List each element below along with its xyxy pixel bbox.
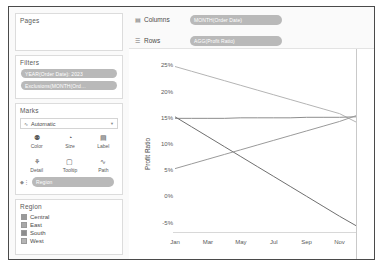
columns-icon: ▤ bbox=[135, 16, 144, 23]
legend-swatch-central bbox=[21, 214, 27, 220]
marks-button-label[interactable]: ▤ Label bbox=[87, 132, 120, 155]
y-axis-tick: -5% bbox=[139, 220, 173, 226]
legend-label-east: East bbox=[30, 222, 42, 228]
marks-button-size-label: Size bbox=[65, 143, 75, 149]
y-axis-tick: 0% bbox=[139, 193, 173, 199]
legend-swatch-south bbox=[21, 230, 27, 236]
chart-canvas[interactable]: Profit Ratio 25%20%15%10%5%0%-5% JanMarM… bbox=[129, 49, 374, 259]
columns-pill-month-order-date[interactable]: MONTH(Order Date) bbox=[190, 15, 282, 25]
pages-title: Pages bbox=[16, 14, 122, 24]
filter-pill-exclusions[interactable]: Exclusions(MONTH(Ord… bbox=[21, 81, 117, 90]
legend-title: Region bbox=[16, 200, 122, 210]
marks-title: Marks bbox=[16, 104, 122, 114]
rows-pill-agg-profit-ratio[interactable]: AGG(Profit Ratio) bbox=[190, 36, 282, 46]
y-axis: 25%20%15%10%5%0%-5% bbox=[135, 49, 173, 259]
size-icon: ◔ bbox=[68, 134, 72, 142]
marks-button-tooltip-label: Tooltip bbox=[63, 167, 77, 173]
legend-items: Central East South West bbox=[21, 214, 49, 246]
path-icon: ∿ bbox=[100, 158, 106, 166]
marks-button-detail-label: Detail bbox=[30, 167, 43, 173]
y-axis-tick: 10% bbox=[139, 141, 173, 147]
color-legend[interactable]: Region Central East South West bbox=[15, 199, 123, 255]
left-panel: Pages Filters YEAR(Order Date): 2023 Exc… bbox=[9, 7, 129, 259]
legend-label-west: West bbox=[30, 238, 44, 244]
x-axis-tick: Mar bbox=[203, 239, 213, 245]
y-axis-tick: 20% bbox=[139, 89, 173, 95]
legend-item-west[interactable]: West bbox=[21, 238, 49, 244]
line-series-group bbox=[175, 55, 356, 233]
y-axis-tick: 5% bbox=[139, 167, 173, 173]
line-series-west[interactable] bbox=[175, 116, 356, 169]
x-axis-line bbox=[173, 232, 356, 233]
marks-button-grid: ⚉ Color ◔ Size ▤ Label ⚘ Detail ▢ Tool bbox=[20, 132, 120, 179]
filter-pill-year[interactable]: YEAR(Order Date): 2023 bbox=[21, 69, 117, 78]
filters-title: Filters bbox=[16, 56, 122, 66]
color-icon: ⚉ bbox=[34, 134, 40, 142]
mark-type-dropdown[interactable]: ∿ Automatic ▼ bbox=[20, 118, 118, 129]
legend-label-south: South bbox=[30, 230, 46, 236]
columns-shelf[interactable]: ▤ Columns MONTH(Order Date) bbox=[129, 11, 374, 28]
legend-swatch-west bbox=[21, 238, 27, 244]
color-encoding-icon: ◆⋮ bbox=[20, 179, 29, 185]
legend-item-east[interactable]: East bbox=[21, 222, 49, 228]
shelf-region: ▤ Columns MONTH(Order Date) ☰ Rows AGG(P… bbox=[129, 7, 374, 49]
encoding-pill-region[interactable]: Region bbox=[32, 177, 114, 187]
line-series-east[interactable] bbox=[175, 117, 356, 119]
x-axis-tick: Nov bbox=[334, 239, 345, 245]
line-series-south[interactable] bbox=[175, 117, 356, 226]
tooltip-icon: ▢ bbox=[66, 158, 73, 166]
marks-button-color[interactable]: ⚉ Color bbox=[20, 132, 53, 155]
x-axis: JanMarMayJulSepNov bbox=[175, 239, 356, 251]
legend-item-south[interactable]: South bbox=[21, 230, 49, 236]
line-series-central[interactable] bbox=[175, 67, 356, 123]
columns-shelf-label: Columns bbox=[144, 16, 190, 23]
rows-icon: ☰ bbox=[135, 37, 144, 44]
legend-label-central: Central bbox=[30, 214, 49, 220]
marks-button-color-label: Color bbox=[31, 143, 43, 149]
pages-card[interactable]: Pages bbox=[15, 13, 123, 51]
marks-button-size[interactable]: ◔ Size bbox=[53, 132, 86, 155]
plot-area bbox=[175, 55, 356, 233]
x-axis-tick: Jan bbox=[170, 239, 180, 245]
marks-card[interactable]: Marks ∿ Automatic ▼ ⚉ Color ◔ Size ▤ Lab… bbox=[15, 103, 123, 195]
marks-button-label-label: Label bbox=[97, 143, 109, 149]
y-axis-tick: 15% bbox=[139, 115, 173, 121]
x-axis-tick: May bbox=[235, 239, 246, 245]
mark-type-label: Automatic bbox=[31, 121, 55, 127]
detail-icon: ⚘ bbox=[34, 158, 40, 166]
line-mark-icon: ∿ bbox=[24, 121, 28, 127]
chevron-down-icon: ▼ bbox=[110, 121, 114, 126]
legend-item-central[interactable]: Central bbox=[21, 214, 49, 220]
marks-button-path-label: Path bbox=[98, 167, 108, 173]
y-axis-tick: 25% bbox=[139, 62, 173, 68]
x-axis-tick: Jul bbox=[270, 239, 278, 245]
filters-card[interactable]: Filters YEAR(Order Date): 2023 Exclusion… bbox=[15, 55, 123, 99]
marks-encoding-row: ◆⋮ Region bbox=[20, 176, 120, 188]
rows-shelf-label: Rows bbox=[144, 37, 190, 44]
legend-swatch-east bbox=[21, 222, 27, 228]
rows-shelf[interactable]: ☰ Rows AGG(Profit Ratio) bbox=[129, 32, 374, 49]
tableau-worksheet: Pages Filters YEAR(Order Date): 2023 Exc… bbox=[8, 6, 375, 260]
label-icon: ▤ bbox=[100, 134, 107, 142]
x-axis-tick: Sep bbox=[301, 239, 312, 245]
plot-right-border bbox=[356, 49, 357, 259]
